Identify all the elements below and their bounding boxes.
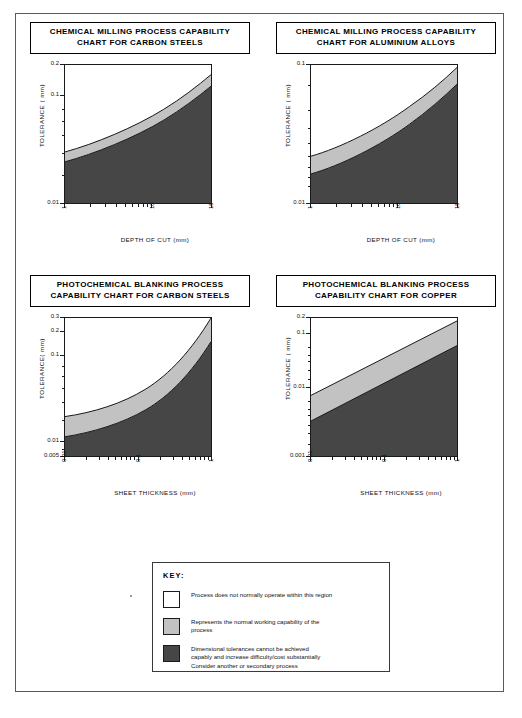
x-tick-label: 1 (61, 206, 67, 209)
chart-title-line: PHOTOCHEMICAL BLANKING PROCESS (33, 280, 247, 291)
chart-title-line: CHART FOR CARBON STEELS (33, 38, 247, 49)
key-item-line: Dimensional tolerances cannot be achieve… (191, 645, 320, 653)
y-tick-label: 0.1 (297, 60, 305, 66)
x-tick-label: 15 (454, 202, 460, 209)
key-item-line: Represents the normal working capability… (191, 618, 319, 626)
key-swatch-dark-icon (163, 645, 180, 662)
axis-ticks: 0.1 0.01 1 (310, 64, 458, 204)
key-item-line: capably and increase difficulty/cost sub… (191, 653, 320, 661)
x-axis-label: SHEET THICKNESS (mm) (306, 489, 496, 496)
y-tick-label: 0.2 (51, 60, 59, 66)
x-tick-label: 1 (307, 206, 313, 209)
axis-ticks: 0.2 0.1 0.01 1 1 (64, 64, 212, 204)
chart-title-box: CHEMICAL MILLING PROCESS CAPABILITY CHAR… (30, 22, 250, 54)
plot-wrapper: TOLERANCE ( mm) 0.1 (266, 60, 506, 255)
x-tick-label: 0.01 (61, 450, 67, 462)
y-axis-label: TOLERANCE ( mm) (284, 324, 291, 414)
chart-title-line: CAPABILITY CHART FOR CARBON STEELS (33, 291, 247, 302)
y-tick-label: 0.001 (290, 452, 305, 458)
x-tick-label: 0.1 (135, 454, 141, 462)
axis-ticks: 0.3 0.2 0.1 0.01 0.005 0.01 (64, 317, 212, 457)
x-tick-label: 10 (149, 202, 155, 209)
axis-ticks: 0.2 0.1 0.01 0.001 0.01 (310, 317, 458, 457)
y-tick-label: 0.3 (51, 313, 59, 319)
x-tick-label: 15 (208, 202, 214, 209)
y-tick-label: 0.1 (297, 329, 305, 335)
x-tick-label: 0.1 (381, 454, 387, 462)
x-axis-label: DEPTH OF CUT (mm) (306, 236, 496, 243)
y-axis-label: TOLERANCE ( mm) (284, 71, 291, 161)
chart-title-line: CHEMICAL MILLING PROCESS CAPABILITY (279, 27, 493, 38)
x-axis-label: SHEET THICKNESS (mm) (60, 489, 250, 496)
chart-title-line: CAPABILITY CHART FOR COPPER (279, 291, 493, 302)
y-tick-label: 0.2 (297, 313, 305, 319)
key-item-line: Consider another or secondary process (191, 662, 320, 670)
y-tick-label: 0.01 (293, 383, 305, 389)
y-tick-label: 0.01 (47, 437, 59, 443)
chart-title-line: CHART FOR ALUMINIUM ALLOYS (279, 38, 493, 49)
x-tick-label: 0.01 (307, 450, 313, 462)
plot-wrapper: TOLERANCE ( mm) 0.2 0.1 (266, 313, 506, 508)
key-item-text: Dimensional tolerances cannot be achieve… (191, 645, 320, 670)
y-axis-label: TOLERANCE ( mm) (38, 71, 45, 161)
chart-title-box: PHOTOCHEMICAL BLANKING PROCESS CAPABILIT… (30, 275, 250, 307)
key-item-dark-region: Dimensional tolerances cannot be achieve… (163, 645, 320, 670)
chart-title-box: PHOTOCHEMICAL BLANKING PROCESS CAPABILIT… (276, 275, 496, 307)
x-tick-label: 10 (395, 202, 401, 209)
y-axis-label: TOLERANCE( mm) (38, 324, 45, 414)
y-tick-label: 0.01 (47, 199, 59, 205)
y-tick-label: 0.1 (51, 351, 59, 357)
x-tick-label: 1 (454, 459, 460, 462)
key-item-text: Represents the normal working capability… (191, 618, 319, 635)
key-swatch-gray-icon (163, 618, 180, 635)
chart-title-box: CHEMICAL MILLING PROCESS CAPABILITY CHAR… (276, 22, 496, 54)
y-tick-label: 0.005 (44, 452, 59, 458)
stray-speck (130, 595, 132, 597)
key-heading: KEY: (163, 571, 185, 580)
key-item-white-region: Process does not normally operate within… (163, 591, 332, 608)
y-tick-label: 0.1 (51, 91, 59, 97)
x-tick-label: 1 (208, 459, 214, 462)
plot-wrapper: TOLERANCE( mm) 0.3 0.2 0.1 (20, 313, 260, 508)
x-axis-label: DEPTH OF CUT (mm) (60, 236, 250, 243)
key-item-line: Process does not normally operate within… (191, 591, 332, 599)
chart-title-line: CHEMICAL MILLING PROCESS CAPABILITY (33, 27, 247, 38)
page-canvas: CHEMICAL MILLING PROCESS CAPABILITY CHAR… (0, 0, 522, 718)
chart-title-line: PHOTOCHEMICAL BLANKING PROCESS (279, 280, 493, 291)
key-item-line: process (191, 626, 319, 634)
key-swatch-white-icon (163, 591, 180, 608)
plot-wrapper: TOLERANCE ( mm) 0.2 0.1 (20, 60, 260, 255)
y-tick-label: 0.01 (293, 199, 305, 205)
key-item-gray-region: Represents the normal working capability… (163, 618, 319, 635)
key-legend-box: KEY: Process does not normally operate w… (152, 562, 390, 672)
y-tick-label: 0.2 (51, 327, 59, 333)
key-item-text: Process does not normally operate within… (191, 591, 332, 599)
